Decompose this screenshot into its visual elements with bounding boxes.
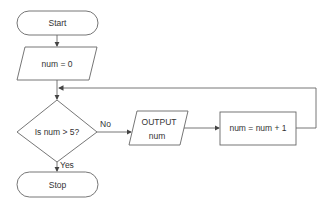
- increment-label: num = num + 1: [220, 123, 296, 133]
- decision-label: Is num > 5?: [17, 127, 97, 137]
- start-label: Start: [17, 18, 98, 28]
- output-label-line2: num: [129, 131, 185, 141]
- edge-loop-back: [59, 88, 316, 128]
- no-label: No: [100, 119, 111, 129]
- flowchart-canvas: [0, 0, 332, 208]
- yes-label: Yes: [60, 160, 74, 170]
- output-label-line1: OUTPUT: [131, 117, 187, 127]
- init-label: num = 0: [17, 59, 97, 69]
- stop-label: Stop: [17, 180, 98, 190]
